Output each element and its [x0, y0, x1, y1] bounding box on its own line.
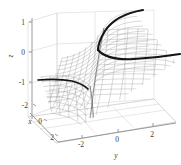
y-tick-neg2: -2	[78, 140, 84, 149]
x-tick-neg2: -2	[22, 101, 28, 110]
y-tick-2: 2	[150, 130, 154, 139]
x-axis-label: x	[27, 117, 32, 126]
z-axis-spine	[29, 18, 32, 119]
z-tick-0: 0	[21, 48, 25, 57]
y-tick-0: 0	[115, 135, 119, 144]
x-tick-2: 2	[50, 133, 54, 142]
z-tick-1: 1	[21, 18, 25, 27]
plot-canvas: 1 0 -1 z -2 0 2 x -2 0 2 y	[0, 0, 181, 165]
z-axis-label: z	[6, 54, 15, 58]
figure-3d-surface-plot: 1 0 -1 z -2 0 2 x -2 0 2 y	[0, 0, 181, 165]
x-tick-0: 0	[38, 117, 42, 126]
y-axis-label: y	[113, 151, 118, 160]
z-tick-neg1: -1	[19, 78, 25, 87]
